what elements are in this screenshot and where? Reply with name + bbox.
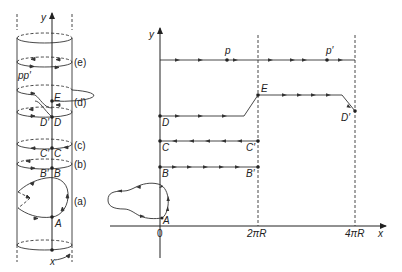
section-label-d: (d) [74,97,86,108]
tick-label-0: 0 [157,228,163,239]
cyl-label-D-prime: D′ [40,117,50,128]
label-B-prime: B′ [246,168,256,179]
plane-arrowheads [117,58,351,218]
cyl-label-B-prime: B′ [40,168,50,179]
unrolled-cylinder-diagram: y x (e) (d) (c) (b) (a) pp′ E D′ D C′ C … [0,0,402,272]
point-C-prime [256,139,260,143]
cyl-y-axis-label: y [40,12,47,23]
point-D-prime [353,109,357,113]
cyl-label-pp: pp′ [17,70,32,81]
point-E [256,93,260,97]
label-C: C [162,142,170,153]
section-label-e: (e) [74,57,86,68]
cyl-label-E: E [54,92,61,103]
cyl-label-B: B [54,168,61,179]
label-C-prime: C′ [246,142,256,153]
plane-figure [108,35,355,226]
label-E: E [261,83,268,94]
path-D-E-Dprime [160,95,355,116]
tick-label-2piR: 2πR [246,228,266,239]
section-label-a: (a) [74,196,86,207]
path-A-loop [108,183,168,218]
cyl-x-axis-label: x [49,256,56,267]
section-label-c: (c) [74,140,86,151]
label-p-prime: p′ [325,45,335,56]
section-label-b: (b) [74,159,86,170]
label-p: p [224,45,231,56]
point-origin-cyl [50,248,54,252]
label-B: B [162,168,169,179]
point-p [225,58,229,62]
plane-points [158,58,357,219]
point-A-cyl [50,215,54,219]
label-D-prime: D′ [341,112,351,123]
label-A: A [162,215,170,226]
cyl-label-C: C [54,148,62,159]
point-B-prime [256,165,260,169]
tick-label-4piR: 4πR [345,228,364,239]
plane-y-axis-label: y [148,29,155,40]
cyl-label-A: A [54,218,62,229]
label-D: D [162,117,169,128]
point-p-prime [325,58,329,62]
cyl-label-D: D [54,117,61,128]
cyl-label-C-prime: C′ [40,148,50,159]
plane-x-axis-label: x [377,228,384,239]
